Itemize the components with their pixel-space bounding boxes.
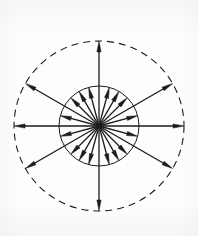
vector-arrowhead [112, 91, 119, 102]
vector-arrowhead [112, 150, 119, 161]
vector-arrowhead [118, 145, 127, 154]
figure-canvas [0, 0, 198, 236]
vector-arrowhead [162, 161, 173, 168]
vector-long-vectors-N [97, 41, 101, 126]
vector-arrowhead [126, 131, 137, 136]
vector-arrowhead [25, 161, 36, 168]
vector-arrowhead [14, 124, 25, 128]
vector-arrowhead [97, 41, 101, 52]
vector-long-vectors-E [99, 124, 184, 128]
origin-layer [96, 123, 101, 128]
vector-arrowhead [89, 87, 94, 98]
vector-arrowhead [60, 131, 71, 136]
vector-long-vectors-SSE [99, 126, 173, 169]
vector-long-vectors-SSW [25, 126, 99, 169]
vector-arrowhead [118, 98, 127, 107]
vector-arrowhead [71, 145, 80, 154]
radial-vector-diagram [0, 0, 198, 236]
vector-arrowhead [89, 153, 94, 164]
vector-arrowhead [173, 124, 184, 128]
vector-arrowhead [25, 84, 36, 91]
vector-arrowhead [126, 116, 137, 121]
vector-arrowhead [79, 91, 86, 102]
vector-arrowhead [162, 84, 173, 91]
vector-arrowhead [79, 150, 86, 161]
vector-arrowhead [104, 153, 109, 164]
vector-arrowhead [71, 98, 80, 107]
vector-long-vectors-S [97, 126, 101, 211]
origin-point [96, 123, 101, 128]
vector-long-vectors-NNE [99, 84, 173, 127]
vector-arrowhead [97, 200, 101, 211]
vector-arrowhead [60, 116, 71, 121]
vector-arrowhead [104, 87, 109, 98]
vector-long-vectors-NNW [25, 84, 99, 127]
vector-long-vectors-W [14, 124, 99, 128]
